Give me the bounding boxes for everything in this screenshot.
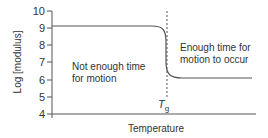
ytick-6: 6 — [39, 74, 45, 86]
left-annotation: Not enough time for motion — [72, 61, 148, 84]
ytick-9: 9 — [39, 22, 45, 34]
ytick-4: 4 — [39, 108, 45, 120]
ytick-5: 5 — [39, 91, 45, 103]
left-annotation-line1: Not enough time — [72, 61, 146, 72]
y-tick-labels: 10 9 8 7 6 5 4 — [33, 5, 45, 120]
y-axis-label: Log [modulus] — [12, 30, 23, 93]
tg-label: Tg — [158, 98, 169, 113]
right-annotation-line2: motion to occur — [180, 54, 249, 65]
right-annotation-line1: Enough time for — [180, 42, 251, 53]
right-annotation: Enough time for motion to occur — [180, 42, 253, 65]
ytick-8: 8 — [39, 39, 45, 51]
x-axis-label: Temperature — [128, 123, 185, 134]
modulus-temperature-chart: 10 9 8 7 6 5 4 Log [modulus] Temperature… — [0, 0, 268, 138]
y-ticks — [47, 11, 52, 114]
ytick-10: 10 — [33, 5, 45, 17]
left-annotation-line2: for motion — [72, 73, 116, 84]
ytick-7: 7 — [39, 56, 45, 68]
